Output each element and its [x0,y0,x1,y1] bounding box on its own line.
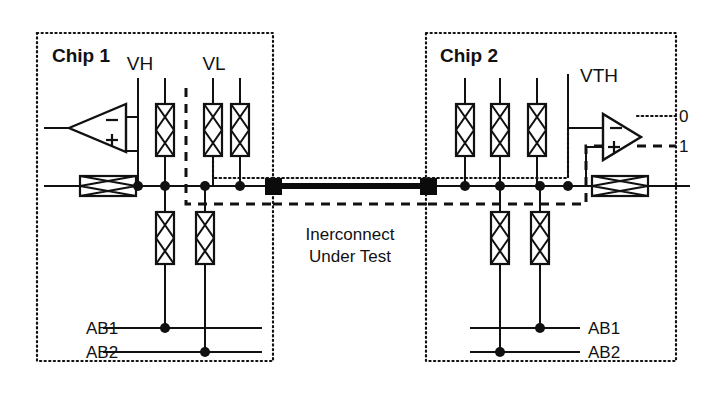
switch-chip2-ab1[interactable] [531,212,549,264]
switch-chip1-vl-2[interactable] [231,104,249,156]
junction-chip2-col1 [460,181,470,191]
vth-label: VTH [580,65,618,86]
junction-chip1-col2 [200,181,210,191]
junction-chip1-col1 [160,181,170,191]
dashed-trace-chip2-to-comparator [428,146,604,204]
switch-chip2-ab2[interactable] [491,212,509,264]
schematic-diagram: Chip 1 Chip 2 VH VL VTH 0 1 AB1 AB2 AB1 … [0,0,712,393]
switch-chip1-bus-left[interactable] [80,176,136,196]
switch-chip1-vh-1[interactable] [156,104,174,156]
chip1-boundary [37,33,273,361]
bond-pad-chip1 [265,178,282,195]
junction-chip2-vth [563,181,573,191]
junction-chip1-ab2 [200,347,210,357]
chip1-ab1-label: AB1 [86,319,118,338]
output-zero-label: 0 [679,107,688,126]
dotted-trace-chip2-to-comparator [428,128,603,178]
bond-pad-chip2 [420,178,437,195]
switch-chip2-3[interactable] [528,104,546,156]
junction-chip1-ab1 [160,323,170,333]
junction-chip2-ab1 [535,323,545,333]
junction-chip2-col3 [535,181,545,191]
switch-chip2-2[interactable] [491,104,509,156]
junction-chip2-ab2 [495,347,505,357]
junction-chip1-col3 [235,181,245,191]
interconnect-title-line1: Inerconnect [306,225,395,244]
switch-chip1-ab2[interactable] [196,212,214,264]
chip2-ab1-label: AB1 [588,319,620,338]
chip2-label: Chip 2 [440,45,498,66]
junction-chip1-sense [133,181,143,191]
chip1-label: Chip 1 [52,45,110,66]
output-one-label: 1 [679,137,688,156]
vh-label: VH [127,53,153,74]
junction-chip2-col2 [495,181,505,191]
vl-label: VL [202,53,225,74]
switch-chip2-bus-right[interactable] [592,176,648,196]
chip1-ab2-label: AB2 [86,343,118,362]
comparator-chip1[interactable] [44,78,138,186]
switch-chip2-1[interactable] [456,104,474,156]
schematic-canvas: Chip 1 Chip 2 VH VL VTH 0 1 AB1 AB2 AB1 … [0,0,712,393]
switch-chip1-ab1[interactable] [156,212,174,264]
chip2-ab2-label: AB2 [588,343,620,362]
interconnect-title-line2: Under Test [309,247,391,266]
switch-chip1-vl-1[interactable] [204,104,222,156]
